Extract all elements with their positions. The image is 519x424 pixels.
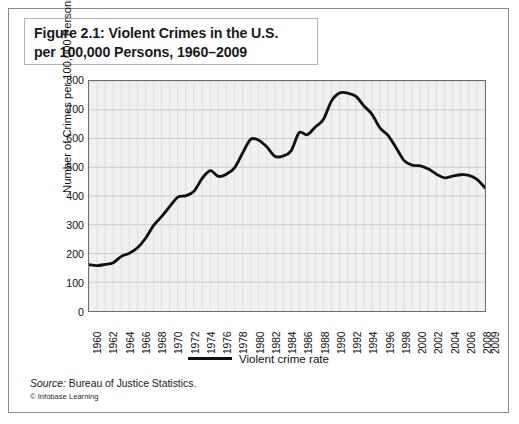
y-tick-label: 200 <box>50 248 84 260</box>
x-tick-label: 2009 <box>490 332 501 354</box>
source-note: Source: Bureau of Justice Statistics. <box>30 378 196 389</box>
x-tick-label: 1984 <box>287 332 298 354</box>
x-tick-label: 2004 <box>450 332 461 354</box>
y-tick-label: 400 <box>50 190 84 202</box>
copyright-credit: © Infobase Learning <box>30 392 99 401</box>
source-keyword: Source: <box>30 378 66 389</box>
x-tick-label: 1992 <box>352 332 363 354</box>
figure-container: Figure 2.1: Violent Crimes in the U.S. p… <box>0 0 519 424</box>
x-tick-label: 1988 <box>320 332 331 354</box>
x-tick-label: 1982 <box>271 332 282 354</box>
x-tick-label: 1960 <box>92 332 103 354</box>
x-tick-label: 1998 <box>401 332 412 354</box>
x-tick-label: 1980 <box>255 332 266 354</box>
x-tick-label: 1978 <box>238 332 249 354</box>
x-tick-label: 1976 <box>222 332 233 354</box>
figure-title-line-2: per 100,000 Persons, 1960–2009 <box>34 43 309 62</box>
y-tick-label: 800 <box>50 74 84 86</box>
y-tick-label: 700 <box>50 103 84 115</box>
chart-legend: Violent crime rate <box>188 352 329 365</box>
x-tick-label: 1972 <box>190 332 201 354</box>
x-tick-label: 2000 <box>417 332 428 354</box>
source-body: Bureau of Justice Statistics. <box>66 378 197 389</box>
violent-crime-rate-line <box>89 81 485 311</box>
x-tick-label: 1996 <box>385 332 396 354</box>
x-tick-label: 1964 <box>125 332 136 354</box>
y-tick-label: 600 <box>50 132 84 144</box>
y-tick-label: 100 <box>50 277 84 289</box>
legend-label-violent-crime-rate: Violent crime rate <box>239 352 329 365</box>
x-tick-label: 1962 <box>108 332 119 354</box>
x-tick-label: 1986 <box>303 332 314 354</box>
x-tick-label: 1970 <box>173 332 184 354</box>
y-tick-label: 300 <box>50 219 84 231</box>
x-tick-label: 1966 <box>141 332 152 354</box>
x-tick-label: 2006 <box>466 332 477 354</box>
x-tick-label: 1990 <box>336 332 347 354</box>
legend-swatch-violent-crime-rate <box>188 357 232 360</box>
y-tick-label: 0 <box>50 306 84 318</box>
x-tick-label: 1974 <box>206 332 217 354</box>
y-tick-label: 500 <box>50 161 84 173</box>
x-tick-label: 1968 <box>157 332 168 354</box>
x-tick-label: 2002 <box>433 332 444 354</box>
figure-title-line-1: Figure 2.1: Violent Crimes in the U.S. <box>34 24 309 43</box>
x-tick-label: 1994 <box>368 332 379 354</box>
plot-area <box>88 80 486 312</box>
y-axis-tick-labels: 0100200300400500600700800 <box>48 80 84 312</box>
